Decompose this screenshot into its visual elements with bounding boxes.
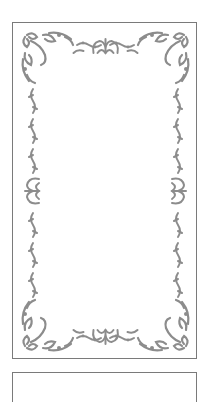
corner-ornament-bottom-right [138,300,188,350]
ornamental-frame [12,22,197,359]
second-frame-partial [12,372,197,402]
corner-ornament-top-right [138,33,188,83]
corner-ornament-bottom-left [23,300,73,350]
corner-ornament-top-left [23,33,73,83]
floral-border-ornament [13,23,198,360]
